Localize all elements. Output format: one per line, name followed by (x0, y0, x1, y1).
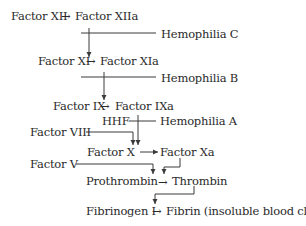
factor-xa-label: Factor Xa (160, 145, 214, 159)
prothrombin-label: Prothrombin (86, 174, 158, 188)
activation-arrow: → (158, 175, 167, 189)
fibrinogen-i-label: Fibrinogen I (86, 204, 156, 218)
factor-v-arrow (76, 164, 153, 174)
factor-viii-arrow (86, 132, 133, 145)
activation-arrow: → (152, 204, 161, 218)
factor-ix-label: Factor IX (53, 99, 105, 113)
factor-v-label: Factor V (30, 157, 78, 171)
hemophilia-c-label: Hemophilia C (161, 27, 238, 41)
activation-arrow: → (61, 9, 70, 23)
factor-xia-label: Factor XIa (100, 54, 159, 68)
thrombin-label: Thrombin (172, 174, 227, 188)
activation-arrow: → (86, 54, 95, 68)
hemophilia-a-label: Hemophilia A (160, 114, 237, 128)
factor-ixa-label: Factor IXa (115, 99, 174, 113)
fibrin-label: Fibrin (insoluble blood clot) (166, 204, 306, 218)
hemophilia-b-label: Hemophilia B (161, 71, 238, 85)
xa-to-thrombin-arrow (164, 158, 180, 174)
factor-x-label: Factor X (87, 145, 135, 159)
factor-xii-label: Factor XII (11, 9, 67, 23)
activation-arrow: → (100, 99, 109, 113)
connector-lines (0, 0, 306, 226)
factor-xiia-label: Factor XIIa (75, 9, 138, 23)
coagulation-cascade-diagram: Factor XII → Factor XIIa Hemophilia C Fa… (0, 0, 306, 226)
factor-xi-label: Factor XI (38, 54, 90, 68)
hhf-label: HHF (102, 114, 129, 128)
factor-viii-label: Factor VIII (30, 125, 91, 139)
